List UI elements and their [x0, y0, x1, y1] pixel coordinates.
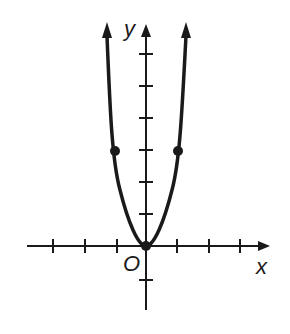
point-1-3: [173, 146, 183, 156]
point-neg1-3: [110, 146, 120, 156]
x-axis-label: x: [256, 256, 267, 278]
y-axis-label: y: [124, 18, 135, 40]
x-axis-arrow-icon: [258, 241, 270, 251]
parabola-graph: [0, 0, 290, 334]
curve-arrow-left-icon: [102, 22, 112, 38]
y-axis: [139, 24, 153, 310]
origin-label: O: [123, 253, 140, 275]
curve-arrow-right-icon: [181, 22, 191, 38]
point-origin: [141, 241, 151, 251]
y-axis-arrow-icon: [141, 24, 151, 37]
